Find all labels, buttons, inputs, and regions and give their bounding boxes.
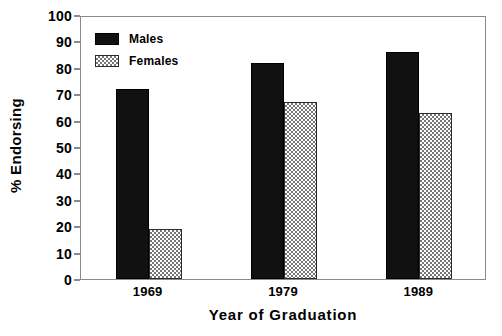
bar-chart-figure: % Endorsing 0102030405060708090100 Males… [0, 0, 502, 336]
bar-females-1989[interactable] [419, 113, 452, 279]
x-tick-label: 1989 [403, 284, 433, 299]
bar-group [386, 17, 452, 279]
y-tick-label: 60 [56, 114, 72, 130]
y-tick-label: 90 [56, 34, 72, 50]
legend-label-males: Males [129, 32, 163, 46]
bar-males-1969[interactable] [116, 89, 149, 279]
legend-swatch-males-icon [95, 33, 119, 45]
y-axis-title-text: % Endorsing [7, 98, 24, 193]
y-tick-label: 40 [56, 166, 72, 182]
legend-item-females: Females [95, 51, 225, 71]
plot-area: Males Females [80, 16, 486, 280]
y-axis-title: % Endorsing [0, 0, 30, 290]
bar-group [251, 17, 317, 279]
y-tick-label: 50 [56, 140, 72, 156]
y-axis-tick-labels: 0102030405060708090100 [28, 16, 80, 280]
y-tick-label: 30 [56, 193, 72, 209]
x-tick-label: 1979 [268, 284, 298, 299]
legend-swatch-females-icon [95, 55, 119, 67]
legend-item-males: Males [95, 29, 225, 49]
bar-females-1969[interactable] [149, 229, 182, 279]
x-tick-label: 1969 [133, 284, 163, 299]
bar-females-1979[interactable] [284, 102, 317, 279]
legend-label-females: Females [129, 54, 178, 68]
bar-males-1989[interactable] [386, 52, 419, 279]
chart-legend: Males Females [95, 29, 225, 73]
bar-males-1979[interactable] [251, 63, 284, 279]
y-tick-label: 100 [48, 8, 72, 24]
y-tick-label: 20 [56, 219, 72, 235]
y-tick-label: 70 [56, 87, 72, 103]
y-tick-label: 0 [64, 272, 72, 288]
y-tick-label: 80 [56, 61, 72, 77]
x-axis-tick-labels: 196919791989 [80, 284, 486, 304]
x-axis-title: Year of Graduation [80, 306, 486, 323]
y-tick-label: 10 [56, 246, 72, 262]
